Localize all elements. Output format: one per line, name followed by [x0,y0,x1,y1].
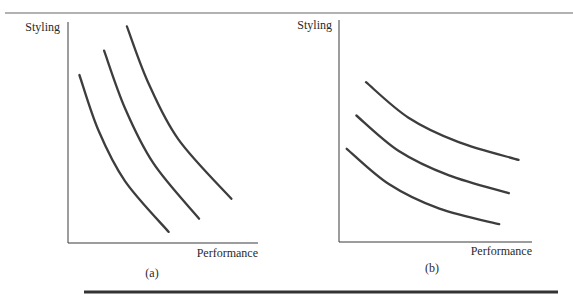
indifference-curve-b-3 [366,82,519,160]
figure: Styling Performance (a) Styling Performa… [0,0,573,295]
indifference-curve-b-1 [347,149,500,224]
indifference-curve-a-3 [127,26,231,198]
x-axis-label-b: Performance [471,244,532,258]
curves-a [79,26,231,232]
indifference-curve-a-2 [104,51,199,219]
panel-b: Styling Performance (b) [297,18,532,275]
y-axis-label-a: Styling [25,20,60,34]
y-axis-label-b: Styling [297,18,332,32]
panel-label-a: (a) [145,266,158,280]
indifference-curve-b-2 [356,116,508,194]
x-axis-label-a: Performance [197,246,258,260]
panel-label-b: (b) [425,261,439,275]
curves-b [347,82,519,224]
panel-a: Styling Performance (a) [25,20,258,280]
